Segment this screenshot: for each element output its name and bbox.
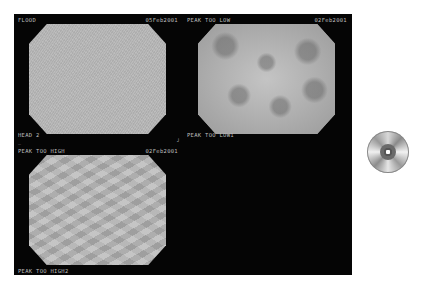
quadrant-date: 02Feb2001 xyxy=(314,17,347,23)
peak-too-high-image xyxy=(29,155,166,265)
quadrant-date: 02Feb2001 xyxy=(145,148,178,154)
corner-marker-icon: ┘ xyxy=(177,138,180,144)
marker-icon: _ xyxy=(18,138,21,144)
image-viewer-panel: FLOOD 05Feb2001 HEAD 2 _ ┘ PEAK TOO LOW … xyxy=(14,14,352,275)
quadrant-peak-too-low[interactable]: PEAK TOO LOW 02Feb2001 PEAK TOO LOW1 xyxy=(183,14,352,144)
quadrant-title: PEAK TOO HIGH xyxy=(18,148,65,154)
quadrant-peak-too-high[interactable]: PEAK TOO HIGH 02Feb2001 PEAK TOO HIGH2 xyxy=(14,145,183,275)
quadrant-caption: HEAD 2 xyxy=(18,132,40,138)
flood-image xyxy=(29,24,166,134)
quadrant-title: PEAK TOO LOW xyxy=(187,17,230,23)
quadrant-flood[interactable]: FLOOD 05Feb2001 HEAD 2 _ ┘ xyxy=(14,14,183,144)
peak-too-low-image xyxy=(198,24,335,134)
quadrant-title: FLOOD xyxy=(18,17,36,23)
cd-hub xyxy=(380,144,396,160)
quadrant-caption: PEAK TOO LOW1 xyxy=(187,132,234,138)
quadrant-date: 05Feb2001 xyxy=(145,17,178,23)
quadrant-empty xyxy=(183,145,352,275)
cd-disc-icon[interactable] xyxy=(367,131,409,173)
quadrant-caption: PEAK TOO HIGH2 xyxy=(18,268,69,274)
